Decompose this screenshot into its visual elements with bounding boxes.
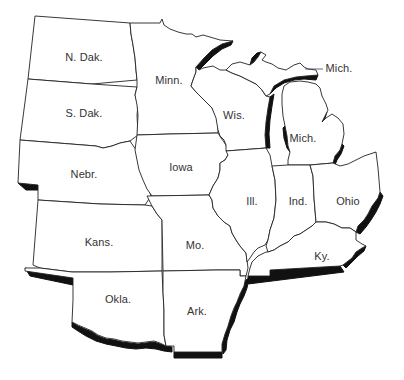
state-michigan-lower [282,81,344,165]
label-oklahoma: Okla. [105,293,131,305]
label-illinois: Ill. [246,195,257,207]
label-ohio: Ohio [336,195,360,207]
label-wisconsin: Wis. [223,109,245,121]
ark-south-shadow [174,352,222,358]
state-north-dakota [28,16,137,84]
label-iowa: Iowa [169,161,193,173]
label-north-dakota: N. Dak. [65,51,102,63]
label-south-dakota: S. Dak. [66,107,103,119]
label-nebraska: Nebr. [71,168,98,180]
label-indiana: Ind. [289,195,308,207]
label-arkansas: Ark. [187,305,207,317]
label-missouri: Mo. [186,239,205,251]
label-kansas: Kans. [85,236,114,248]
label-kentucky: Ky. [314,250,329,262]
map-svg [0,0,404,380]
label-michigan-lower: Mich. [290,132,317,144]
label-minnesota: Minn. [155,74,182,86]
label-michigan-upper-callout: Mich. [326,62,353,74]
midwest-map: N. Dak. S. Dak. Nebr. Kans. Okla. Minn. … [0,0,404,380]
